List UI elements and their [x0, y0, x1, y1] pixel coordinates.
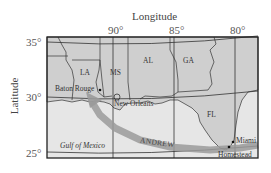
lon-tick-85: 85° [169, 24, 184, 36]
state-label-ga: GA [183, 56, 194, 65]
lat-tick-25: 25° [26, 147, 41, 159]
lat-tick-35: 35° [26, 36, 41, 48]
city-dot-miami [232, 141, 235, 144]
city-label-miami: Miami [236, 136, 256, 145]
lat-tick-30: 30° [26, 91, 41, 103]
city-label-homestead: Homestead [218, 150, 252, 159]
x-axis-title: Longitude [132, 10, 177, 22]
state-label-la: LA [80, 68, 90, 77]
lon-tick-80: 80° [230, 24, 245, 36]
city-label-baton-rouge: Baton Rouge [55, 84, 94, 93]
y-axis-title: Latitude [8, 78, 20, 115]
state-label-ms: MS [110, 68, 121, 77]
water-label-gulf-of-mexico: Gulf of Mexico [60, 141, 105, 150]
city-dot-baton-rouge [99, 89, 102, 92]
state-label-fl: FL [207, 110, 216, 119]
city-dot-homestead [228, 146, 231, 149]
lon-tick-90: 90° [108, 24, 123, 36]
city-label-new-orleans: New Orleans [114, 99, 153, 108]
state-label-al: AL [143, 56, 153, 65]
